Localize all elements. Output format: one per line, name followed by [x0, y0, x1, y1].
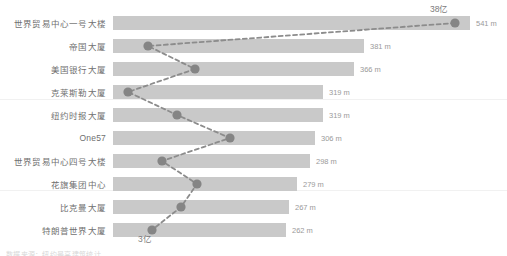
bar-value: 279 m [303, 177, 324, 191]
bar[interactable] [113, 177, 297, 191]
chart-row[interactable]: 世界贸易中心四号大楼 298 m [0, 150, 507, 172]
horizontal-bar-chart: 世界贸易中心一号大楼 541 m 帝国大厦 381 m 美国银行大厦 366 m… [0, 0, 507, 256]
bar[interactable] [113, 85, 323, 99]
bar-value: 262 m [292, 223, 313, 237]
bar-value: 298 m [316, 154, 337, 168]
chart-row[interactable]: 帝国大厦 381 m [0, 35, 507, 57]
row-label: 特朗普世界大厦 [0, 219, 106, 241]
bar-value: 381 m [370, 39, 391, 53]
chart-row[interactable]: 纽约时报大厦 319 m [0, 104, 507, 126]
row-label: One57 [0, 127, 106, 149]
row-label: 世界贸易中心四号大楼 [0, 150, 106, 172]
chart-row[interactable]: 世界贸易中心一号大楼 541 m [0, 12, 507, 34]
bar-value: 541 m [476, 16, 497, 30]
chart-row[interactable]: One57 306 m [0, 127, 507, 149]
bar-value: 267 m [295, 200, 316, 214]
bar-value: 319 m [329, 85, 350, 99]
bar[interactable] [113, 200, 289, 214]
bar[interactable] [113, 131, 315, 145]
chart-row[interactable]: 特朗普世界大厦 262 m [0, 219, 507, 241]
row-label: 纽约时报大厦 [0, 104, 106, 126]
chart-row[interactable]: 克莱斯勒大厦 319 m [0, 81, 507, 103]
bar-value: 366 m [360, 62, 381, 76]
row-label: 比克曼大厦 [0, 196, 106, 218]
footer-note: 数据来源：纽约最高建筑统计 [6, 249, 246, 256]
bar[interactable] [113, 154, 310, 168]
row-label: 美国银行大厦 [0, 58, 106, 80]
row-label: 花旗集团中心 [0, 173, 106, 195]
bar[interactable] [113, 39, 364, 53]
chart-row[interactable]: 比克曼大厦 267 m [0, 196, 507, 218]
bar-value: 306 m [321, 131, 342, 145]
bar[interactable] [113, 108, 323, 122]
annotation-min-cost: 3亿 [138, 232, 152, 244]
bar[interactable] [113, 62, 354, 76]
row-label: 克莱斯勒大厦 [0, 81, 106, 103]
bar[interactable] [113, 16, 470, 30]
bar-value: 319 m [329, 108, 350, 122]
chart-row[interactable]: 花旗集团中心 279 m [0, 173, 507, 195]
annotation-max-cost: 38亿 [430, 2, 448, 14]
row-label: 世界贸易中心一号大楼 [0, 12, 106, 34]
row-label: 帝国大厦 [0, 35, 106, 57]
chart-row[interactable]: 美国银行大厦 366 m [0, 58, 507, 80]
